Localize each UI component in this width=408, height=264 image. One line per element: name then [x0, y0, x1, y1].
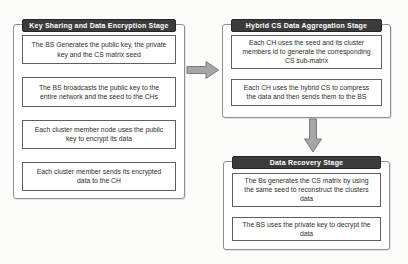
stage-recovery-steps: The Bs generates the CS matrix by using … [224, 162, 389, 249]
stage-key-sharing: Key Sharing and Data Encryption Stage Th… [13, 24, 185, 199]
step-bs-broadcasts-key: The BS broadcasts the public key to the … [22, 77, 176, 106]
stage-key-sharing-title: Key Sharing and Data Encryption Stage [22, 19, 176, 32]
step-member-sends-data: Each cluster member sends its encrypted … [22, 162, 176, 191]
step-bs-generates-keys: The BS Generates the public key, the pri… [22, 35, 176, 64]
stage-recovery: Data Recovery Stage The Bs generates the… [223, 161, 390, 250]
step-bs-decrypts-data: The BS uses the private key to decrypt t… [232, 217, 381, 241]
stage-aggregation-steps: Each CH uses the seed and its cluster me… [223, 25, 390, 117]
arrow-right-icon [186, 59, 220, 81]
flowchart-diagram: Key Sharing and Data Encryption Stage Th… [0, 0, 408, 264]
step-ch-compresses-data: Each CH uses the hybrid CS to compress t… [231, 79, 382, 106]
arrow-down-icon [301, 118, 325, 154]
stage-aggregation-title: Hybrid CS Data Aggregation Stage [231, 19, 382, 32]
step-member-encrypts-data: Each cluster member node uses the public… [22, 120, 176, 149]
step-ch-generates-submatrix: Each CH uses the seed and its cluster me… [231, 35, 382, 69]
stage-aggregation: Hybrid CS Data Aggregation Stage Each CH… [222, 24, 391, 118]
step-bs-reconstructs-data: The Bs generates the CS matrix by using … [232, 173, 381, 207]
stage-key-sharing-steps: The BS Generates the public key, the pri… [14, 25, 184, 198]
stage-recovery-title: Data Recovery Stage [232, 156, 381, 169]
